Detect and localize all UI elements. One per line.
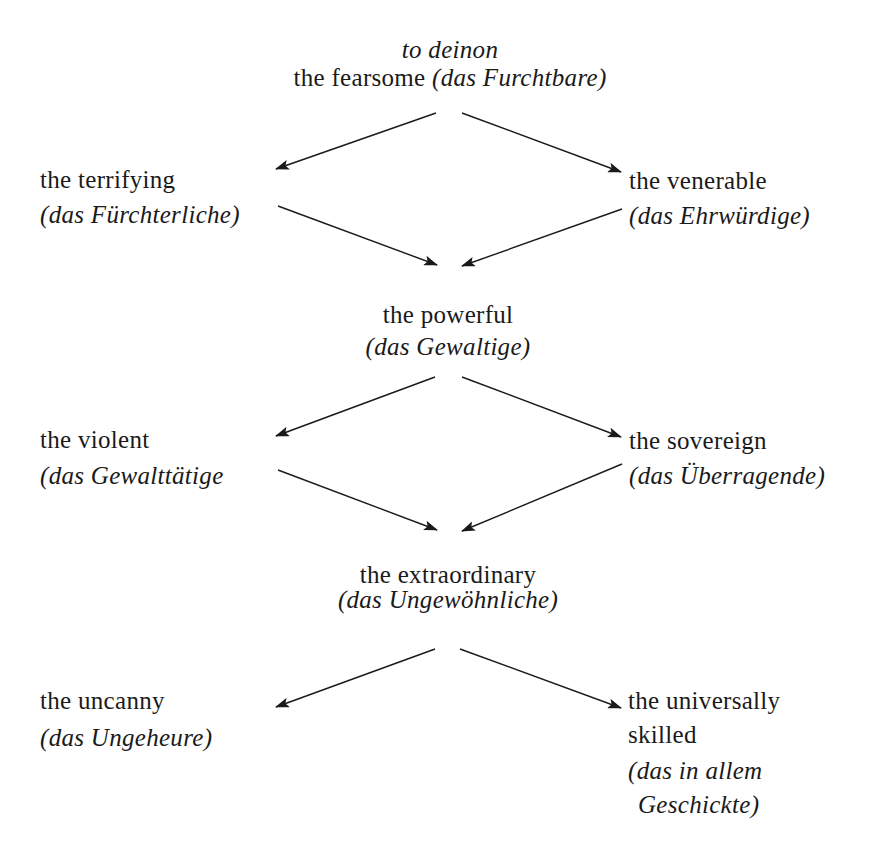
universally-skilled-label-line2: skilled bbox=[628, 722, 697, 747]
universally-skilled-german-line1: (das in allem bbox=[628, 758, 762, 783]
arrow-merge1-to-level2-left bbox=[276, 377, 435, 436]
arrow-group bbox=[276, 113, 622, 708]
arrow-level2-left-to-merge2 bbox=[278, 470, 437, 530]
terrifying-label: the terrifying bbox=[40, 167, 175, 192]
violent-label: the violent bbox=[40, 427, 150, 452]
uncanny-german: (das Ungeheure) bbox=[40, 725, 212, 750]
universally-skilled-german-line2: Geschickte) bbox=[638, 792, 759, 817]
extraordinary-label: the extraordinary bbox=[360, 562, 537, 587]
sovereign-label: the sovereign bbox=[629, 428, 767, 453]
universally-skilled-label-line1: the universally bbox=[628, 688, 780, 713]
arrow-root-to-level1-right bbox=[462, 113, 621, 172]
root-german: (das Furchtbare) bbox=[432, 64, 606, 91]
terrifying-german: (das Fürchterliche) bbox=[40, 202, 240, 227]
diagram-canvas: to deinon the fearsome (das Furchtbare) … bbox=[0, 0, 885, 852]
powerful-label: the powerful bbox=[383, 302, 514, 327]
violent-german: (das Gewalttätige bbox=[40, 463, 224, 488]
arrow-level1-right-to-merge1 bbox=[462, 209, 622, 266]
root-title: to deinon bbox=[402, 37, 498, 62]
venerable-german: (das Ehrwürdige) bbox=[629, 203, 810, 228]
powerful-german: (das Gewaltige) bbox=[366, 334, 531, 359]
root-label: the fearsome (das Furchtbare) bbox=[293, 65, 606, 90]
arrow-merge2-to-level3-right bbox=[460, 649, 621, 708]
extraordinary-german: (das Ungewöhnliche) bbox=[338, 587, 558, 612]
arrow-merge1-to-level2-right bbox=[462, 377, 621, 437]
arrow-merge2-to-level3-left bbox=[276, 649, 435, 707]
arrow-level1-left-to-merge1 bbox=[278, 206, 437, 265]
arrow-level2-right-to-merge2 bbox=[462, 464, 622, 531]
arrow-root-to-level1-left bbox=[276, 113, 436, 169]
sovereign-german: (das Überragende) bbox=[629, 463, 825, 488]
venerable-label: the venerable bbox=[629, 168, 767, 193]
root-english: the fearsome bbox=[293, 64, 425, 91]
uncanny-label: the uncanny bbox=[40, 688, 165, 713]
